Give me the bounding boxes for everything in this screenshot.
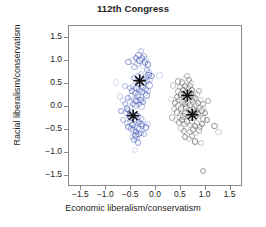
chart-title: 112th Congress: [0, 3, 266, 14]
y-tick-label: −1.0: [24, 146, 62, 156]
data-points-layer: [69, 26, 243, 187]
y-tick-label: 1.0: [24, 54, 62, 64]
republican-median-lower: [186, 109, 198, 121]
median-markers-layer: [69, 26, 243, 187]
plot-area: [68, 25, 242, 186]
y-tick-label: −0.5: [24, 123, 62, 133]
scatter-plot-figure: 112th Congress Racial liberalism/conserv…: [0, 0, 266, 227]
democrat-median-upper: [133, 75, 145, 87]
democrat-median-lower: [127, 110, 139, 122]
y-tick-label: 1.5: [24, 31, 62, 41]
x-axis-label: Economic liberalism/conservatism: [0, 203, 266, 213]
y-tick-label: 0.0: [24, 100, 62, 110]
y-tick-label: −1.5: [24, 169, 62, 179]
y-axis-label: Racial liberalism/conservatism: [12, 2, 22, 168]
republican-median-upper: [181, 89, 193, 101]
y-tick-label: 0.5: [24, 77, 62, 87]
x-tick-label: 1.5: [213, 189, 247, 199]
